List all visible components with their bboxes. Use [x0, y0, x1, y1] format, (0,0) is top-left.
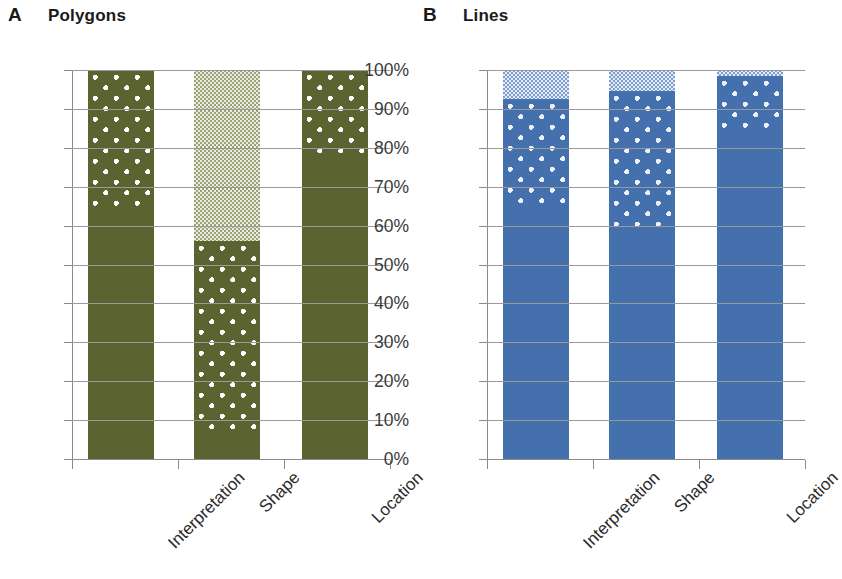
y-axis-tick	[64, 381, 72, 382]
y-tick-label: 60%	[374, 215, 409, 236]
y-axis-tick	[64, 420, 72, 421]
y-tick-label: 70%	[374, 176, 409, 197]
bar-segment-dotted	[609, 91, 675, 229]
panel-b-letter: B	[423, 4, 437, 26]
plot-area-a	[72, 70, 390, 459]
gridline	[487, 226, 805, 227]
bar-segment-solid	[88, 210, 154, 459]
y-axis-tick	[479, 226, 487, 227]
y-tick-label: 20%	[374, 371, 409, 392]
gridline	[487, 342, 805, 343]
gridline	[72, 109, 390, 110]
gridline	[487, 420, 805, 421]
y-axis-tick	[479, 109, 487, 110]
x-axis-line-a	[72, 459, 390, 460]
y-axis-tick	[64, 459, 72, 460]
y-axis-tick	[479, 342, 487, 343]
gridline	[72, 148, 390, 149]
panel-lines: B Lines 0%10%20%30%40%50%60%70%80%90%100…	[415, 0, 830, 579]
y-axis-tick	[479, 148, 487, 149]
gridline	[72, 303, 390, 304]
gridline	[487, 265, 805, 266]
gridline	[72, 70, 390, 71]
y-axis-tick	[64, 70, 72, 71]
y-tick-label: 50%	[374, 254, 409, 275]
y-axis-tick	[479, 70, 487, 71]
y-axis-tick	[64, 265, 72, 266]
x-tick-label: Shape	[255, 468, 304, 517]
gridline	[72, 187, 390, 188]
bar-segment-dotted	[503, 99, 569, 206]
y-axis-tick	[64, 303, 72, 304]
x-axis-line-b	[487, 459, 805, 460]
y-axis-tick	[64, 109, 72, 110]
bar-segment-dotted	[717, 76, 783, 132]
gridline	[72, 226, 390, 227]
bar-segment-checkered	[609, 70, 675, 91]
y-axis-tick	[479, 381, 487, 382]
gridline	[487, 70, 805, 71]
plot-area-b	[487, 70, 805, 459]
y-tick-label: 0%	[384, 449, 409, 470]
gridline	[72, 265, 390, 266]
gridline	[72, 381, 390, 382]
bar-segment-checkered	[503, 70, 569, 99]
bar-segment-solid	[717, 132, 783, 459]
x-axis-tick	[805, 460, 806, 469]
y-tick-label: 40%	[374, 293, 409, 314]
bar-segment-dotted	[88, 70, 154, 210]
gridline	[72, 342, 390, 343]
panel-b-heading: B Lines	[423, 4, 508, 26]
y-tick-label: 10%	[374, 410, 409, 431]
x-axis-labels-a: InterpretationShapeLocation	[72, 462, 390, 577]
y-axis-tick	[479, 187, 487, 188]
x-tick-label: Interpretation	[579, 468, 664, 553]
bar-segment-checkered	[194, 70, 260, 241]
y-axis-tick	[479, 265, 487, 266]
y-axis-tick	[64, 187, 72, 188]
panel-a-heading: A Polygons	[8, 4, 126, 26]
y-axis-tick	[64, 226, 72, 227]
y-axis-tick	[479, 459, 487, 460]
y-axis-tick	[64, 342, 72, 343]
y-tick-label: 30%	[374, 332, 409, 353]
gridline	[487, 109, 805, 110]
gridline	[487, 187, 805, 188]
panel-b-title: Lines	[463, 6, 508, 26]
x-tick-label: Shape	[670, 468, 719, 517]
gridline	[487, 148, 805, 149]
y-axis-tick	[64, 148, 72, 149]
panel-a-letter: A	[8, 4, 22, 26]
panel-a-title: Polygons	[48, 6, 126, 26]
x-tick-label: Location	[783, 468, 842, 528]
y-tick-label: 90%	[374, 98, 409, 119]
bar-segment-solid	[194, 432, 260, 459]
gridline	[72, 420, 390, 421]
bar-segment-dotted	[194, 241, 260, 432]
gridline	[487, 303, 805, 304]
y-axis-labels-b: 0%10%20%30%40%50%60%70%80%90%100%	[349, 70, 409, 459]
y-tick-label: 100%	[364, 60, 409, 81]
y-axis-tick	[479, 420, 487, 421]
x-axis-labels-b: InterpretationShapeLocation	[487, 462, 805, 577]
y-tick-label: 80%	[374, 137, 409, 158]
y-axis-tick	[479, 303, 487, 304]
x-tick-label: Interpretation	[164, 468, 249, 553]
gridline	[487, 381, 805, 382]
